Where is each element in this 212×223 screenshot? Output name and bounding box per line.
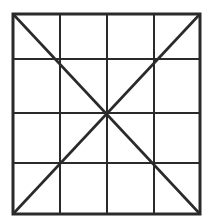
grid-diagram [0,0,212,223]
